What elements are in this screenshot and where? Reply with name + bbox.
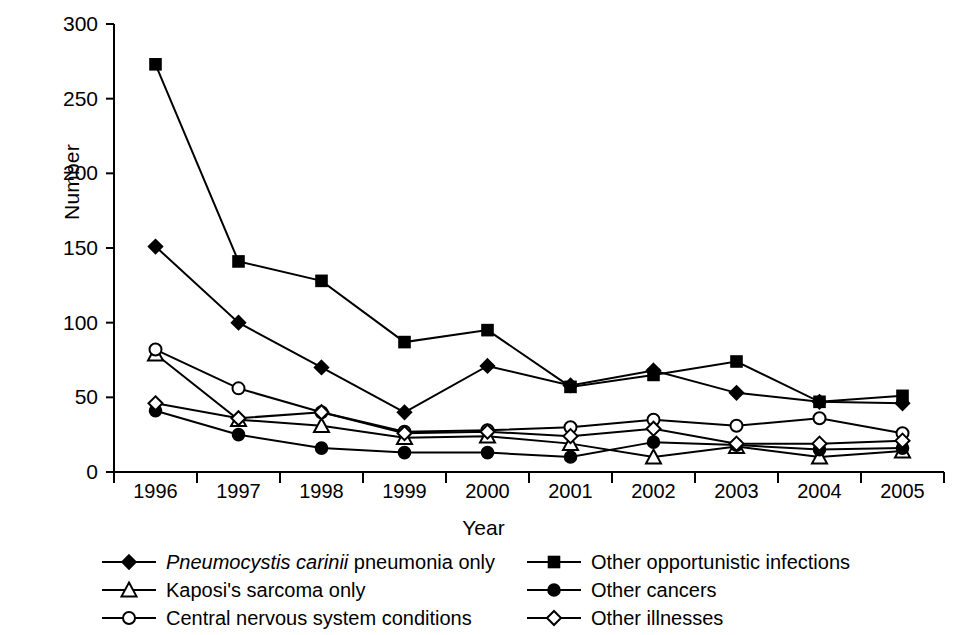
data-point-open-diamond: [547, 611, 561, 625]
legend-item-label: Other opportunistic infections: [591, 552, 850, 572]
data-point-filled-square: [549, 557, 560, 568]
legend-item[interactable]: Kaposi's sarcoma only: [100, 576, 495, 604]
data-point-filled-circle: [316, 442, 328, 454]
legend-item[interactable]: Central nervous system conditions: [100, 604, 495, 632]
data-point-filled-diamond: [730, 386, 744, 400]
series-4: [156, 350, 903, 434]
legend-marker-filled-square: [525, 552, 583, 572]
data-point-open-circle: [233, 382, 245, 394]
data-point-filled-square: [648, 369, 659, 380]
data-point-filled-square: [233, 256, 244, 267]
legend-item-label: Other cancers: [591, 580, 717, 600]
data-point-filled-diamond: [122, 555, 136, 569]
data-point-filled-circle: [548, 584, 560, 596]
legend-marker-open-circle: [100, 608, 158, 628]
data-point-filled-square: [399, 337, 410, 348]
series-5: [156, 403, 903, 443]
data-point-filled-square: [814, 396, 825, 407]
data-point-open-circle: [123, 612, 135, 624]
data-point-filled-diamond: [315, 360, 329, 374]
series-line: [156, 350, 903, 434]
series-2: [156, 354, 903, 457]
legend-item-label: Central nervous system conditions: [166, 608, 472, 628]
data-point-filled-square: [731, 356, 742, 367]
legend-item-label: Kaposi's sarcoma only: [166, 580, 365, 600]
data-point-filled-circle: [648, 436, 660, 448]
legend-item-label: Pneumocystis carinii pneumonia only: [166, 552, 495, 572]
series-markers-5: [149, 396, 910, 450]
chart-container: Number Year 050100150200250300 199619971…: [0, 0, 967, 635]
series-line: [156, 64, 903, 401]
legend-marker-open-triangle: [100, 580, 158, 600]
legend-column-right: Other opportunistic infectionsOther canc…: [525, 548, 850, 632]
legend-item[interactable]: Other opportunistic infections: [525, 548, 850, 576]
series-1: [156, 64, 903, 401]
legend-marker-wrap: [525, 580, 583, 600]
data-point-filled-diamond: [398, 405, 412, 419]
legend-item[interactable]: Pneumocystis carinii pneumonia only: [100, 548, 495, 576]
legend-item-label: Other illnesses: [591, 608, 723, 628]
legend-marker-wrap: [100, 608, 158, 628]
data-point-filled-circle: [482, 447, 494, 459]
data-point-filled-circle: [565, 451, 577, 463]
legend-marker-wrap: [100, 552, 158, 572]
data-point-filled-square: [897, 390, 908, 401]
data-point-filled-square: [316, 275, 327, 286]
data-point-filled-square: [150, 59, 161, 70]
legend-marker-wrap: [525, 552, 583, 572]
data-point-open-circle: [731, 420, 743, 432]
data-point-filled-circle: [399, 447, 411, 459]
legend-marker-filled-circle: [525, 580, 583, 600]
data-point-filled-circle: [233, 429, 245, 441]
legend-marker-wrap: [525, 608, 583, 628]
legend-item[interactable]: Other illnesses: [525, 604, 850, 632]
legend-column-left: Pneumocystis carinii pneumonia onlyKapos…: [100, 548, 495, 632]
plot-area: [0, 0, 967, 540]
data-point-open-circle: [814, 412, 826, 424]
data-point-filled-square: [482, 325, 493, 336]
legend-item[interactable]: Other cancers: [525, 576, 850, 604]
series-line: [156, 354, 903, 457]
series-markers-1: [150, 59, 908, 407]
legend-marker-open-diamond: [525, 608, 583, 628]
chart-legend: Pneumocystis carinii pneumonia onlyKapos…: [70, 548, 950, 632]
series-markers-2: [148, 347, 910, 464]
legend-marker-wrap: [100, 580, 158, 600]
legend-marker-filled-diamond: [100, 552, 158, 572]
data-point-open-circle: [150, 344, 162, 356]
data-point-filled-square: [565, 381, 576, 392]
series-line: [156, 403, 903, 443]
data-point-filled-diamond: [481, 359, 495, 373]
